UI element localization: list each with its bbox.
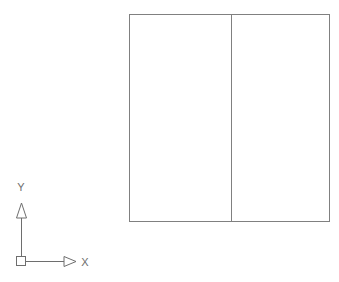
ucs-y-axis-label: Y [17, 181, 25, 193]
cad-drawing-viewport[interactable]: X Y [0, 0, 339, 282]
ucs-origin-square [17, 257, 26, 266]
drawing-surface[interactable]: X Y [0, 0, 339, 282]
ucs-y-axis-arrow-icon [17, 203, 27, 218]
ucs-x-axis-arrow-icon [64, 257, 76, 267]
ucs-x-axis-label: X [81, 256, 89, 268]
ucs-coordinate-icon[interactable]: X Y [17, 181, 90, 268]
outer-rectangle[interactable] [130, 15, 330, 222]
